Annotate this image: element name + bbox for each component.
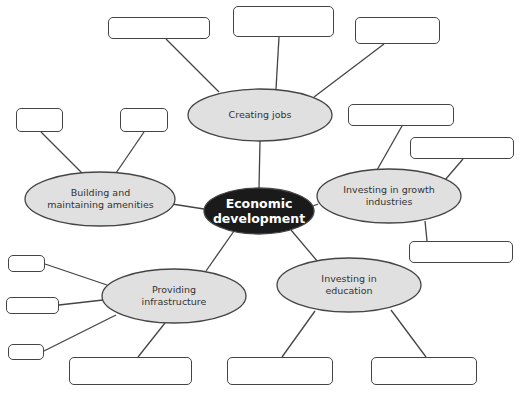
center-line-2: development bbox=[213, 211, 305, 226]
blank-box-amenities-2[interactable] bbox=[120, 108, 168, 132]
blank-box-growth-1[interactable] bbox=[348, 104, 454, 126]
blank-box-jobs-1[interactable] bbox=[108, 17, 210, 39]
center-line-1: Economic bbox=[226, 196, 293, 211]
blank-box-infrastructure-3[interactable] bbox=[8, 344, 44, 360]
blank-box-amenities-1[interactable] bbox=[16, 108, 63, 132]
label-line-2: maintaining amenities bbox=[47, 199, 153, 211]
blank-box-jobs-3[interactable] bbox=[355, 17, 440, 44]
blank-box-growth-3[interactable] bbox=[409, 241, 513, 263]
blank-box-growth-2[interactable] bbox=[410, 137, 514, 159]
blank-box-infrastructure-4[interactable] bbox=[69, 357, 192, 385]
label-economic-development: Economic development bbox=[204, 195, 314, 227]
label-line-2: infrastructure bbox=[142, 296, 207, 308]
label-building-amenities: Building and maintaining amenities bbox=[28, 184, 173, 214]
blank-box-education-1[interactable] bbox=[227, 357, 333, 385]
blank-box-jobs-2[interactable] bbox=[233, 6, 334, 37]
label-line-1: Investing in growth bbox=[343, 184, 434, 196]
label-investing-education: Investing in education bbox=[279, 270, 419, 300]
label-line-1: Investing in bbox=[321, 273, 376, 285]
blank-box-infrastructure-2[interactable] bbox=[6, 297, 59, 314]
blank-box-infrastructure-1[interactable] bbox=[8, 255, 45, 272]
label-line-2: industries bbox=[366, 196, 413, 208]
label-providing-infrastructure: Providing infrastructure bbox=[104, 281, 244, 311]
label-growth-industries: Investing in growth industries bbox=[318, 181, 460, 211]
label-line-1: Creating jobs bbox=[229, 109, 292, 121]
label-line-1: Providing bbox=[152, 284, 196, 296]
label-line-1: Building and bbox=[71, 187, 130, 199]
label-line-2: education bbox=[325, 285, 372, 297]
label-creating-jobs: Creating jobs bbox=[190, 100, 330, 130]
blank-box-education-2[interactable] bbox=[371, 357, 477, 385]
